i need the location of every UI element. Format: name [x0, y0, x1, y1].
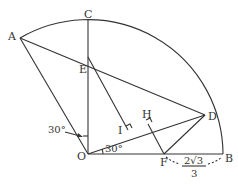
- dimension-denominator: 3: [191, 168, 197, 179]
- segment-AD: [20, 38, 205, 115]
- geometry-diagram: A C E D I H O F B 30° 30° 2√3 3: [0, 0, 238, 187]
- label-H: H: [142, 108, 152, 121]
- label-A: A: [7, 30, 17, 43]
- label-C: C: [84, 8, 92, 21]
- angle-label-AOC: 30°: [48, 124, 66, 135]
- label-E: E: [79, 63, 87, 76]
- label-F: F: [160, 156, 168, 169]
- label-I: I: [118, 124, 122, 137]
- segment-FH: [148, 124, 164, 154]
- segment-FD: [164, 115, 205, 154]
- segment-EI: [88, 57, 128, 130]
- angle-label-DOB: 30°: [105, 143, 123, 154]
- dimension-FB-right: [208, 157, 222, 164]
- dimension-numerator: 2√3: [184, 155, 203, 166]
- angle-arc-DOB: [102, 149, 103, 154]
- dimension-FB-left: [166, 157, 180, 164]
- label-O: O: [77, 150, 86, 163]
- arrow-icon: [77, 133, 83, 137]
- label-B: B: [225, 152, 233, 165]
- label-D: D: [208, 110, 217, 123]
